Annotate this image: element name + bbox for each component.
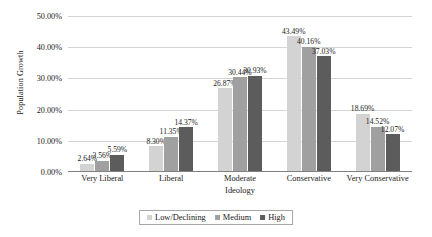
bar-value-label: 43.49% [282, 27, 305, 36]
bar: 14.37% [179, 127, 193, 172]
legend-item[interactable]: Low/Declining [147, 213, 206, 222]
legend-label: Medium [223, 213, 251, 222]
bar-group: 2.64%3.56%5.59% [68, 16, 137, 172]
bar: 40.16% [302, 47, 316, 172]
y-axis-tick-label: 50.00% [6, 12, 62, 21]
bar: 43.49% [287, 36, 301, 172]
x-axis-title: Ideology [68, 186, 412, 195]
legend-swatch-icon [147, 215, 152, 220]
bar: 30.44% [233, 77, 247, 172]
bar-value-label: 5.59% [108, 145, 128, 154]
bar: 30.93% [248, 76, 262, 173]
bar: 5.59% [110, 155, 124, 172]
bar-groups: 2.64%3.56%5.59%8.30%11.35%14.37%26.87%30… [68, 16, 412, 172]
bar: 11.35% [164, 137, 178, 172]
bar-group: 8.30%11.35%14.37% [137, 16, 206, 172]
legend-item[interactable]: Medium [215, 213, 251, 222]
bar-value-label: 18.69% [351, 104, 374, 113]
bar: 12.07% [386, 134, 400, 172]
chart-legend: Low/DecliningMediumHigh [139, 210, 293, 225]
bar-group: 43.49%40.16%37.03% [274, 16, 343, 172]
bar: 26.87% [218, 88, 232, 172]
y-axis-tick-label: 10.00% [6, 136, 62, 145]
legend-item[interactable]: High [260, 213, 285, 222]
bar-value-label: 8.30% [146, 137, 166, 146]
y-axis-tick-label: 30.00% [6, 74, 62, 83]
bar: 37.03% [317, 56, 331, 172]
y-axis-tick-label: 40.00% [6, 43, 62, 52]
y-axis-tick-label: 20.00% [6, 105, 62, 114]
bar-value-label: 37.03% [312, 47, 335, 56]
x-axis-line [68, 171, 412, 172]
legend-label: Low/Declining [155, 213, 206, 222]
bar-chart: Population Growth 0.00%10.00%20.00%30.00… [0, 0, 432, 237]
bar-value-label: 30.93% [243, 66, 266, 75]
legend-swatch-icon [215, 215, 220, 220]
bar: 8.30% [149, 146, 163, 172]
y-axis-tick-label: 0.00% [6, 168, 62, 177]
bar-value-label: 12.07% [381, 125, 404, 134]
plot-area: 0.00%10.00%20.00%30.00%40.00%50.00% 2.64… [68, 16, 412, 172]
bar-group: 26.87%30.44%30.93% [206, 16, 275, 172]
bar-value-label: 14.37% [174, 118, 197, 127]
bar-value-label: 40.16% [297, 37, 320, 46]
bar-group: 18.69%14.52%12.07% [343, 16, 412, 172]
legend-label: High [268, 213, 285, 222]
legend-swatch-icon [260, 215, 265, 220]
